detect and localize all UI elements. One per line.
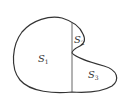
closed-curve-boundary	[13, 17, 116, 93]
label-s1: S1	[38, 53, 49, 65]
region-diagram: S1 S2 S3	[0, 0, 124, 105]
label-s3: S3	[88, 69, 99, 81]
